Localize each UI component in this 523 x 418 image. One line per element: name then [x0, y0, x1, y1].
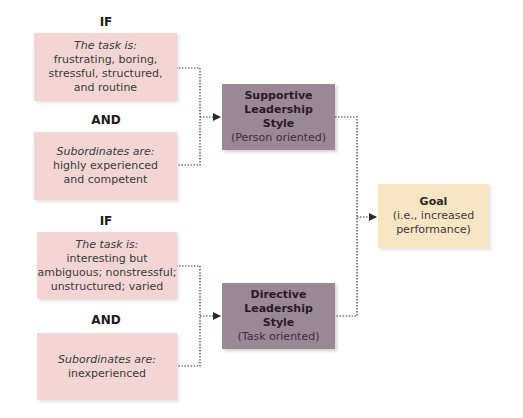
if-label-upper: IF [56, 15, 156, 29]
style-title: Style [263, 117, 295, 131]
task-line: and routine [74, 81, 137, 95]
task-line: ambiguous; nonstressful; [38, 266, 177, 280]
supportive-leadership-style-box: Supportive Leadership Style (Person orie… [222, 84, 335, 150]
task-condition-box-upper: The task is: frustrating, boring, stress… [34, 33, 177, 101]
subordinates-line: and competent [64, 173, 148, 187]
task-line: stressful, structured, [49, 67, 163, 81]
task-heading: The task is: [75, 238, 138, 252]
style-title: Supportive [244, 89, 312, 103]
subordinates-line: highly experienced [53, 159, 158, 173]
style-title: Directive [251, 288, 307, 302]
subordinates-condition-box-upper: Subordinates are: highly experienced and… [34, 132, 177, 200]
task-line: frustrating, boring, [54, 53, 158, 67]
task-condition-box-lower: The task is: interesting but ambiguous; … [37, 232, 177, 299]
style-subtitle: (Person oriented) [231, 131, 326, 145]
goal-box: Goal (i.e., increased performance) [378, 184, 489, 248]
if-label-lower: IF [56, 214, 156, 228]
goal-line: performance) [396, 223, 471, 237]
task-line: interesting but [67, 252, 148, 266]
subordinates-heading: Subordinates are: [57, 145, 155, 159]
directive-leadership-style-box: Directive Leadership Style (Task oriente… [222, 283, 335, 349]
task-heading: The task is: [74, 39, 137, 53]
task-line: unstructured; varied [51, 280, 164, 294]
style-title: Leadership [244, 103, 313, 117]
subordinates-condition-box-lower: Subordinates are: inexperienced [37, 333, 177, 400]
goal-line: (i.e., increased [393, 209, 474, 223]
and-label-lower: AND [56, 313, 156, 327]
subordinates-line: inexperienced [68, 367, 146, 381]
style-subtitle: (Task oriented) [238, 330, 320, 344]
goal-title: Goal [420, 195, 448, 209]
and-label-upper: AND [56, 113, 156, 127]
subordinates-heading: Subordinates are: [58, 353, 156, 367]
style-title: Leadership [244, 302, 313, 316]
style-title: Style [263, 316, 295, 330]
